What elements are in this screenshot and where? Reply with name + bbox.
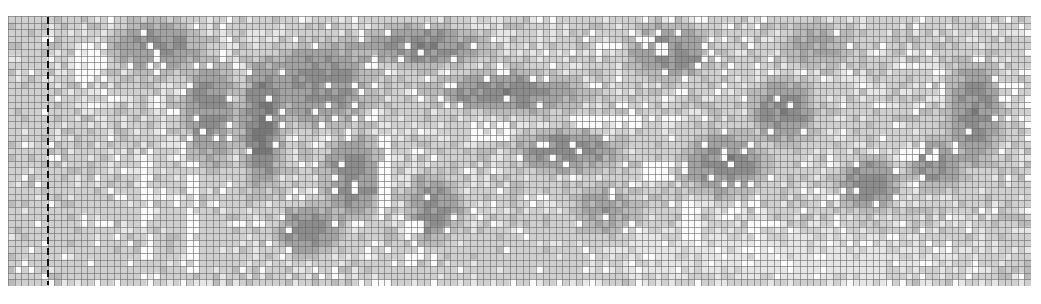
pixel-mosaic-grid <box>8 16 1031 286</box>
dashed-marker-line <box>47 17 49 285</box>
mosaic-canvas <box>8 16 1031 286</box>
